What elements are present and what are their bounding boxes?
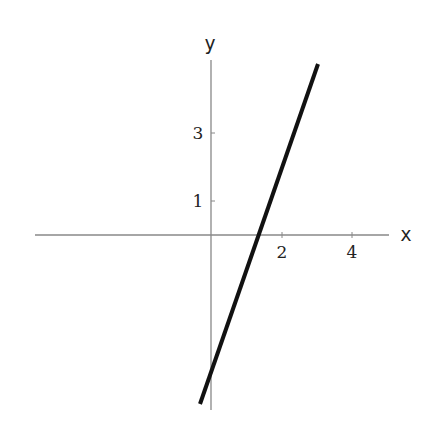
chart: 2 4 1 3 x y bbox=[0, 0, 435, 430]
y-axis-label: y bbox=[204, 32, 215, 54]
function-line bbox=[200, 64, 318, 404]
x-tick-label-2: 2 bbox=[277, 242, 288, 262]
y-tick-label-1: 1 bbox=[193, 191, 204, 211]
x-tick-label-4: 4 bbox=[347, 242, 358, 262]
y-tick-label-3: 3 bbox=[193, 123, 204, 143]
x-axis-label: x bbox=[400, 223, 411, 245]
